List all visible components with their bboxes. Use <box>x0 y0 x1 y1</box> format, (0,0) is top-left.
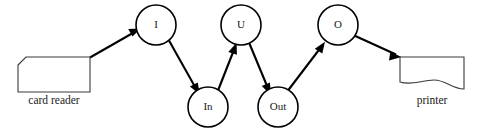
node-out[interactable]: Out <box>258 87 298 127</box>
edge-line <box>90 32 136 58</box>
printer-label: printer <box>417 94 448 107</box>
edge-line <box>169 41 197 90</box>
printer-shape <box>400 57 464 89</box>
edge-line <box>249 43 269 90</box>
node-label-in: In <box>203 100 213 112</box>
node-o[interactable]: O <box>318 5 358 45</box>
edge-line <box>288 47 322 91</box>
edge-card-reader-to-i <box>90 29 141 58</box>
node-label-o: O <box>334 18 342 30</box>
edge-u-to-out <box>249 43 271 95</box>
diagram-canvas: card reader printer I U O In Out <box>0 0 480 131</box>
card-reader-shape <box>18 57 90 92</box>
device-card-reader: card reader <box>18 57 90 106</box>
node-label-i: I <box>154 18 158 30</box>
edge-o-to-printer <box>352 35 402 61</box>
card-reader-label: card reader <box>28 94 80 106</box>
node-label-u: U <box>237 18 245 30</box>
edge-line <box>218 49 235 91</box>
node-i[interactable]: I <box>136 5 176 45</box>
edge-i-to-in <box>169 41 200 95</box>
device-printer: printer <box>400 57 464 107</box>
node-u[interactable]: U <box>221 5 261 45</box>
node-in[interactable]: In <box>188 87 228 127</box>
node-label-out: Out <box>270 100 287 112</box>
diagram-svg: card reader printer I U O In Out <box>0 0 480 131</box>
edge-out-to-o <box>288 42 325 91</box>
edge-line <box>352 35 396 55</box>
edge-in-to-u <box>218 43 237 91</box>
